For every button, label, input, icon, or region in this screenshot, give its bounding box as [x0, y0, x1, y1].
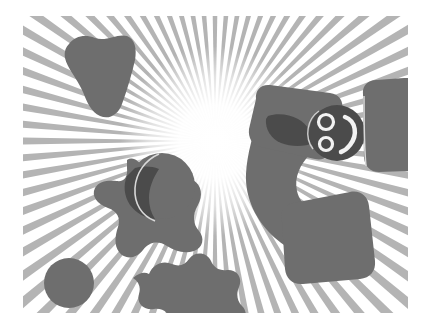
- image-canvas: [0, 0, 429, 332]
- shape-square-bottom-right: [281, 192, 375, 284]
- shape-circle-bottom-left: [44, 258, 94, 308]
- artboard: [23, 16, 408, 313]
- shape-rect-far-right: [363, 78, 408, 172]
- abstract-artwork: [23, 16, 408, 313]
